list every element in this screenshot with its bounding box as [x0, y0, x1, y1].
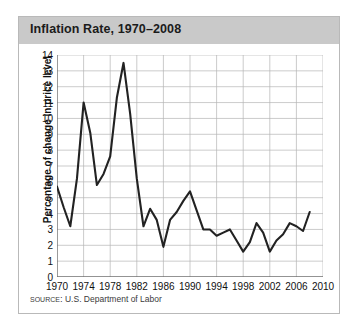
- x-axis-tick-label: 1974: [72, 281, 94, 292]
- y-axis-tick-label: 14: [42, 50, 53, 61]
- x-axis-tick-label: 2010: [312, 281, 334, 292]
- y-axis-tick-label: 6: [47, 176, 53, 187]
- x-axis-tick-label: 1970: [46, 281, 68, 292]
- source-text: U.S. Department of Labor: [65, 294, 162, 304]
- y-axis-tick-label: 13: [42, 65, 53, 76]
- plot-area: [57, 55, 323, 277]
- y-axis-tick-label: 7: [47, 161, 53, 172]
- y-axis-tick-label: 8: [47, 145, 53, 156]
- y-axis-tick-label: 3: [47, 224, 53, 235]
- x-axis-tick-label: 1986: [152, 281, 174, 292]
- inflation-rate-line: [57, 63, 310, 252]
- x-axis-tick-label: 1998: [232, 281, 254, 292]
- page-title: Inflation Rate, 1970–2008: [30, 22, 181, 36]
- grid-lines: [57, 55, 323, 277]
- y-axis-tick-label: 11: [43, 97, 53, 108]
- line-chart-svg: [57, 55, 323, 277]
- x-axis-tick-label: 1978: [99, 281, 121, 292]
- y-axis-tick-label: 1: [47, 256, 53, 267]
- plot-wrapper: 0123456789101112131419701974197819821986…: [57, 55, 323, 277]
- y-axis-tick-label: 5: [47, 192, 53, 203]
- y-axis-tick-label: 2: [47, 240, 53, 251]
- x-axis-tick-label: 2002: [259, 281, 281, 292]
- x-axis-tick-label: 1982: [126, 281, 148, 292]
- chart-figure: Inflation Rate, 1970–2008 Percentage of …: [18, 16, 340, 314]
- y-axis-tick-label: 9: [47, 129, 53, 140]
- y-axis-tick-label: 4: [47, 208, 53, 219]
- chart-title-bar: Inflation Rate, 1970–2008: [19, 17, 339, 44]
- x-axis-tick-label: 1994: [205, 281, 227, 292]
- source-note: SOURCE: U.S. Department of Labor: [30, 293, 162, 304]
- x-axis-tick-label: 2006: [285, 281, 307, 292]
- source-label: SOURCE:: [30, 293, 63, 304]
- x-axis-tick-label: 1990: [179, 281, 201, 292]
- y-axis-tick-label: 10: [42, 113, 53, 124]
- y-axis-tick-label: 12: [42, 81, 53, 92]
